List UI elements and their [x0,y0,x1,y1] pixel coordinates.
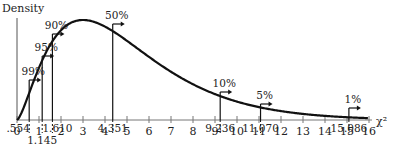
chi-square-chart: 012345678910111213141516 99%.55495%1.145… [0,0,404,168]
percent-label: 90% [45,19,68,31]
x-tick-label: 3 [80,125,87,138]
critical-value-label: 1.145 [27,134,57,146]
critical-value-label: 15.086 [331,122,368,134]
percent-label: 10% [213,77,236,89]
percent-label: 95% [35,41,58,53]
critical-value-label: .554 [6,122,30,134]
y-axis-label: Density [2,2,45,15]
critical-value-label: 9.236 [205,122,235,134]
x-tick-label: 7 [168,125,175,138]
critical-value-marker: 5%11.070 [242,89,279,134]
critical-value-label: 4.351 [98,122,128,134]
critical-value-marker: 10%9.236 [205,77,236,134]
percent-label: 50% [105,9,128,21]
x-tick-label: 13 [296,125,310,138]
x-tick-label: 8 [190,125,197,138]
percent-label: 99% [22,65,45,77]
critical-value-label: 1.610 [42,122,72,134]
critical-value-marker: 50%4.351 [98,9,129,134]
critical-value-label: 11.070 [242,122,279,134]
density-curve [17,20,368,120]
critical-value-marker: 90%1.610 [42,19,72,134]
percent-label: 1% [345,93,362,105]
x-tick-label: 6 [146,125,153,138]
percent-label: 5% [256,89,273,101]
x-axis-label: χ² [376,115,387,128]
critical-value-marker: 1%15.086 [331,93,368,134]
